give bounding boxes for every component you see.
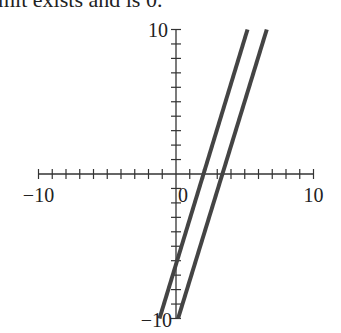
y-tick-label-max: 10 [148, 19, 168, 41]
axes [39, 30, 314, 319]
x-tick-label-max: 10 [304, 184, 324, 206]
line-chart: −101010−100 [0, 0, 341, 333]
y-tick-label-min: −10 [141, 309, 172, 331]
origin-label: 0 [178, 184, 188, 206]
x-tick-label-min: −10 [23, 184, 54, 206]
